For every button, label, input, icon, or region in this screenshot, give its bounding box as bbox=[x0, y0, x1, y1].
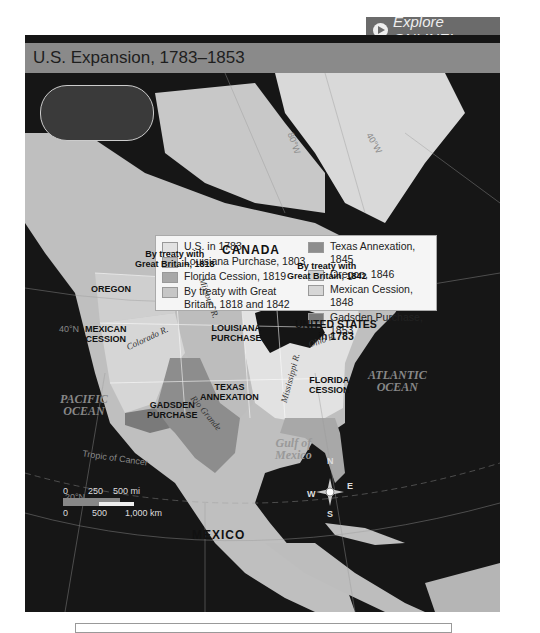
legend-item: By treaty with Great Britain, 1818 and 1… bbox=[162, 285, 308, 311]
scale-mi-250: 250 bbox=[88, 486, 103, 496]
scale-mi-500: 500 mi bbox=[113, 486, 140, 496]
label-mexican-cession: MEXICAN CESSION bbox=[85, 324, 127, 344]
label-pacific-ocean: PACIFIC OCEAN bbox=[60, 393, 108, 417]
label-gulf-of-mexico: Gulf of Mexico bbox=[275, 437, 312, 461]
compass-w: W bbox=[307, 489, 316, 499]
label-treaty-1818: By treaty with Great Britain, 1818 bbox=[135, 249, 215, 269]
label-gadsden: GADSDEN PURCHASE bbox=[147, 400, 198, 420]
label-atlantic-ocean: ATLANTIC OCEAN bbox=[368, 369, 427, 393]
compass-s: S bbox=[327, 509, 333, 519]
label-treaty-1842: By treaty with Great Britain, 1842 bbox=[287, 261, 367, 281]
label-mexico: MEXICO bbox=[192, 528, 245, 542]
world-locator-inset bbox=[40, 85, 154, 141]
label-40n: 40°N bbox=[59, 324, 79, 334]
label-20n: 20°N bbox=[65, 492, 85, 502]
scale-km-500: 500 bbox=[92, 508, 107, 518]
scale-km-1000: 1,000 km bbox=[125, 508, 162, 518]
label-louisiana: LOUISIANA PURCHASE bbox=[211, 323, 262, 343]
map-title: U.S. Expansion, 1783–1853 bbox=[25, 43, 500, 73]
scale-km-0: 0 bbox=[63, 508, 68, 518]
map-frame: U.S. Expansion, 1783–1853 bbox=[25, 35, 500, 612]
label-canada: CANADA bbox=[222, 243, 280, 257]
label-florida: FLORIDA CESSION bbox=[309, 375, 350, 395]
scale-mi-0: 0 bbox=[63, 486, 68, 496]
compass-e: E bbox=[347, 481, 353, 491]
caption-box bbox=[75, 623, 452, 633]
legend-item: Mexican Cession, 1848 bbox=[308, 283, 430, 309]
compass-n: N bbox=[327, 456, 334, 466]
label-texas: TEXAS ANNEXATION bbox=[200, 382, 259, 402]
label-oregon: OREGON bbox=[91, 284, 131, 294]
map-canvas[interactable]: U.S. in 1783 Louisiana Purchase, 1803 Fl… bbox=[25, 73, 500, 612]
